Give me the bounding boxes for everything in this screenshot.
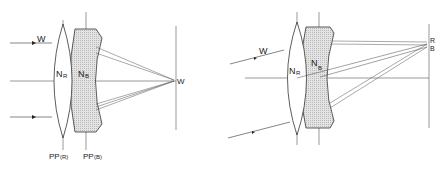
pp-front-sub: (R) xyxy=(60,154,68,160)
focus-label-blue: B xyxy=(430,45,435,52)
pp-rear-sub: (B) xyxy=(94,154,102,160)
chief-ray xyxy=(320,47,427,77)
incoming-ray-bottom xyxy=(228,122,290,138)
ray xyxy=(332,41,427,42)
incoming-ray-top xyxy=(230,50,284,64)
ray xyxy=(96,81,174,110)
nodal-rear-label: N xyxy=(78,69,85,79)
ray xyxy=(332,44,427,45)
ray-label: W xyxy=(37,34,46,44)
lens-diagram: W W N R N B PP (R) PP (B) xyxy=(0,0,443,169)
pp-rear-label: PP xyxy=(83,152,94,161)
ray xyxy=(96,81,174,107)
arrow-icon xyxy=(32,115,36,119)
ray xyxy=(96,81,174,104)
ray-label: W xyxy=(259,46,268,56)
pp-front-label: PP xyxy=(49,152,60,161)
nodal-rear-label: N xyxy=(311,58,318,68)
nodal-front-label: N xyxy=(56,69,63,79)
ray xyxy=(330,47,427,108)
focus-label-red: R xyxy=(430,37,435,44)
nodal-front-sub: R xyxy=(296,70,301,76)
ray xyxy=(96,47,174,80)
ray xyxy=(96,53,174,80)
nodal-front-label: N xyxy=(289,66,296,76)
ray xyxy=(330,44,427,103)
concave-lens xyxy=(70,29,102,132)
arrow-icon xyxy=(32,41,36,45)
focus-label: W xyxy=(177,77,185,86)
nodal-rear-sub: B xyxy=(318,65,322,71)
nodal-rear-sub: B xyxy=(85,73,89,79)
convex-lens xyxy=(54,24,72,138)
nodal-front-sub: R xyxy=(63,73,68,79)
left-diagram: W W N R N B PP (R) PP (B) xyxy=(10,12,185,161)
right-diagram: W N R N B R B xyxy=(228,12,435,145)
